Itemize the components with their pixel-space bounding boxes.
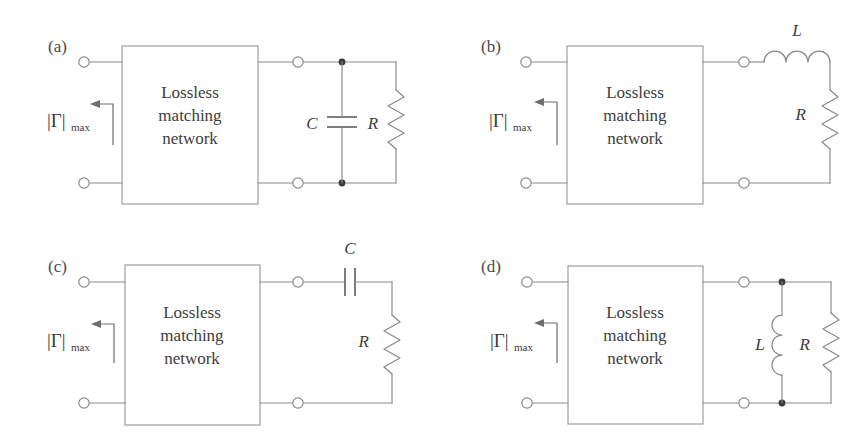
reflection-arrow-head [90,100,100,108]
input-terminal-top [521,57,531,67]
panel-c: (c) Lossless matching network |Γ| max C [0,220,433,440]
gamma-max-subscript: max [71,121,90,133]
panel-a: (a) Lossless matching network |Γ| max [0,0,433,220]
box-text-line1: Lossless [606,303,664,322]
output-terminal-top [293,277,303,287]
gamma-max-subscript: max [514,341,533,353]
box-text-line1: Lossless [606,83,664,102]
input-terminal-bottom [79,398,89,408]
gamma-max-symbol: |Γ| [490,330,509,351]
gamma-max-symbol: |Γ| [47,110,66,131]
matching-network-box [122,46,258,204]
panel-c-diagram: (c) Lossless matching network |Γ| max C [0,220,433,440]
resistor-label: R [367,114,379,133]
panel-b: (b) Lossless matching network |Γ| max L [433,0,866,220]
inductor-coil [764,51,830,62]
reflection-arrow-line [99,104,113,145]
panel-a-label: (a) [48,37,67,56]
gamma-max-symbol: |Γ| [489,110,508,131]
reflection-arrow-line [100,324,114,363]
gamma-max-symbol: |Γ| [47,330,66,351]
inductor-label: L [791,21,801,40]
box-text-line3: network [607,129,663,148]
circuit-figure: (a) Lossless matching network |Γ| max [0,0,866,440]
reflection-arrow-line [543,102,557,145]
input-terminal-bottom [522,398,532,408]
inductor-label: L [754,335,764,354]
output-terminal-bottom [293,398,303,408]
panel-d-label: (d) [481,257,501,276]
panel-b-label: (b) [481,37,501,56]
input-terminal-bottom [521,178,531,188]
box-text-line2: matching [603,326,667,345]
resistor-zigzag [822,90,838,149]
box-text-line2: matching [603,106,667,125]
output-terminal-top [293,57,303,67]
reflection-arrow-head [534,98,544,106]
resistor-label: R [795,105,807,124]
matching-network-box [125,265,260,425]
capacitor-label: C [306,114,318,133]
input-terminal-top [79,57,89,67]
panel-b-diagram: (b) Lossless matching network |Γ| max L [433,0,866,220]
panel-d-diagram: (d) Lossless matching network |Γ| max [433,220,866,440]
output-terminal-top [739,57,749,67]
output-terminal-top [739,277,749,287]
box-text-line1: Lossless [161,83,219,102]
resistor-zigzag [388,90,404,149]
box-text-line3: network [162,129,218,148]
output-terminal-bottom [739,178,749,188]
gamma-max-subscript: max [513,121,532,133]
output-terminal-bottom [739,398,749,408]
input-terminal-top [79,277,89,287]
gamma-max-subscript: max [71,341,90,353]
reflection-arrow-head [534,319,544,327]
panel-a-diagram: (a) Lossless matching network |Γ| max [0,0,433,220]
matching-network-box [567,46,703,204]
box-text-line3: network [164,349,220,368]
input-terminal-top [522,277,532,287]
resistor-zigzag [384,315,400,374]
box-text-line2: matching [158,106,222,125]
box-text-line3: network [607,349,663,368]
inductor-coil [772,315,782,375]
capacitor-label: C [344,239,356,258]
reflection-arrow-line [543,323,557,363]
reflection-arrow-head [91,320,101,328]
panel-c-label: (c) [48,257,67,276]
matching-network-box [568,266,703,424]
resistor-label: R [358,332,370,351]
box-text-line1: Lossless [163,303,221,322]
resistor-label: R [799,335,811,354]
box-text-line2: matching [160,326,224,345]
resistor-zigzag [823,313,839,372]
input-terminal-bottom [79,178,89,188]
output-terminal-bottom [293,178,303,188]
panel-d: (d) Lossless matching network |Γ| max [433,220,866,440]
